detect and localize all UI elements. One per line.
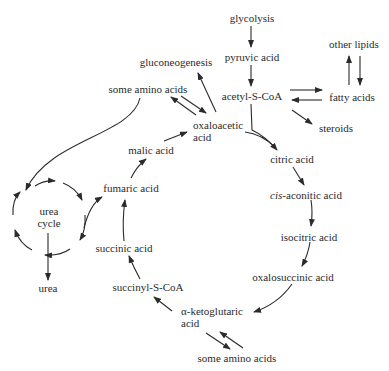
arrow-isocitric-oxalosuccinic	[302, 242, 310, 266]
arrow-aminoacids-ureacycle	[26, 98, 140, 190]
node-some-amino-acids-bottom: some amino acids	[198, 352, 277, 364]
arrow-fumaric-malic	[131, 159, 146, 178]
arrow-oxaloacetic-gluconeogenesis	[198, 73, 216, 112]
node-glycolysis: glycolysis	[230, 12, 275, 24]
node-urea-cycle-line2: cycle	[37, 217, 60, 229]
metabolic-pathway-diagram: glycolysis pyruvic acid acetyl-S-CoA oth…	[0, 0, 389, 371]
arrow-citric-cisaconitic	[293, 167, 304, 185]
node-gluconeogenesis: gluconeogenesis	[140, 56, 213, 68]
arrow-succinyl-succinic	[129, 256, 140, 279]
node-acetyl-scoa: acetyl-S-CoA	[222, 90, 282, 102]
node-oxaloacetic-acid-line2: acid	[193, 131, 211, 143]
node-fatty-acids: fatty acids	[329, 91, 375, 103]
node-pyruvic-acid: pyruvic acid	[225, 51, 280, 63]
cis-prefix: cis	[270, 189, 282, 201]
urea-cycle-arc-4	[45, 249, 70, 255]
node-aketoglutaric-acid-line2: acid	[181, 317, 199, 329]
node-citric-acid: citric acid	[270, 153, 314, 165]
node-fumaric-acid: fumaric acid	[103, 182, 158, 194]
node-succinyl-scoa: succinyl-S-CoA	[113, 281, 184, 293]
arrow-malic-oxaloacetic	[164, 132, 187, 141]
urea-cycle-arc-5	[15, 230, 32, 250]
arrow-acetyl-citric	[251, 104, 277, 150]
node-other-lipids: other lipids	[329, 38, 379, 50]
node-steroids: steroids	[319, 122, 353, 134]
arrow-acetyl-steroids	[292, 110, 312, 124]
arrow-cisaconitic-isocitric	[311, 200, 312, 226]
urea-cycle-arc-2	[63, 183, 82, 200]
node-urea-cycle-line1: urea	[40, 205, 59, 217]
node-succinic-acid: succinic acid	[95, 242, 152, 254]
urea-cycle-arc-6	[13, 192, 20, 215]
node-oxaloacetic-acid-line1: oxaloacetic	[193, 119, 243, 131]
node-isocitric-acid: isocitric acid	[281, 231, 338, 243]
arrow-aminoacids-aketo	[220, 332, 243, 348]
arrow-oxalosuccinic-aketo	[254, 284, 292, 312]
node-oxalosuccinic-acid: oxalosuccinic acid	[252, 271, 334, 283]
cis-aconitic-suffix: -aconitic acid	[282, 189, 342, 201]
node-aketoglutaric-acid-line1: α-ketoglutaric	[181, 305, 243, 317]
arrow-aketo-aminoacids	[206, 333, 230, 349]
arrow-ureacycle-fumaric	[84, 197, 102, 228]
arrow-aminoacids-oxaloacetic	[181, 96, 206, 113]
urea-cycle-arc-1	[35, 181, 55, 186]
arrow-succinic-fumaric	[123, 200, 125, 241]
node-cis-aconitic-acid: cis-aconitic acid	[270, 189, 342, 201]
node-some-amino-acids-top: some amino acids	[109, 83, 188, 95]
arrow-oxaloacetic-aminoacids	[171, 97, 196, 115]
node-malic-acid: malic acid	[128, 144, 174, 156]
arrow-aketo-succinyl	[154, 297, 172, 311]
node-urea: urea	[39, 282, 58, 294]
